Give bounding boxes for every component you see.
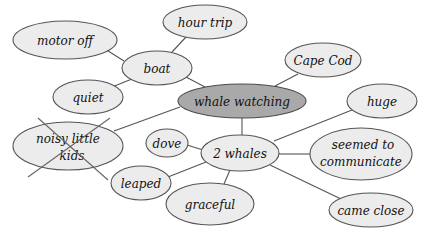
node-label: dove	[153, 137, 182, 151]
edge-2-whales-leaped	[168, 162, 206, 177]
node-label-line1: noisy little	[36, 132, 100, 146]
node-label: came close	[337, 204, 404, 218]
node-boat: boat	[122, 51, 192, 85]
node-label: huge	[367, 95, 397, 109]
node-label: graceful	[185, 198, 236, 212]
node-cape-cod: Cape Cod	[285, 43, 361, 77]
node-label-line2: communicate	[320, 155, 402, 169]
node-label: motor off	[37, 34, 95, 48]
edge-2-whales-dove	[187, 145, 203, 150]
node-seemed-to-communicate: seemed to communicate	[310, 128, 412, 180]
node-label: Cape Cod	[293, 54, 352, 68]
node-label: 2 whales	[212, 147, 267, 161]
edge-whale-watching-noisy-kids	[114, 107, 180, 131]
node-label: boat	[144, 62, 171, 76]
node-2-whales: 2 whales	[201, 135, 279, 171]
node-noisy-little-kids: noisy little kids	[13, 118, 123, 180]
node-came-close: came close	[329, 193, 413, 227]
edge-2-whales-graceful	[224, 170, 230, 184]
node-graceful: graceful	[166, 183, 254, 225]
node-whale-watching-central: whale watching	[178, 84, 306, 118]
node-huge: huge	[347, 84, 417, 118]
node-dove: dove	[146, 129, 188, 157]
node-label: leaped	[121, 177, 162, 191]
node-hour-trip: hour trip	[163, 5, 247, 39]
edge-whale-watching-cape-cod	[275, 74, 298, 86]
node-motor-off: motor off	[13, 21, 117, 59]
edge-boat-hour-trip	[172, 37, 186, 52]
node-leaped: leaped	[111, 166, 171, 200]
central-topic-label: whale watching	[194, 95, 290, 109]
node-label: hour trip	[178, 16, 233, 30]
node-label: quiet	[72, 91, 103, 105]
idea-web-diagram: motor off hour trip boat Cape Cod quiet …	[0, 0, 423, 234]
edge-boat-whale-watching	[186, 77, 205, 87]
node-quiet: quiet	[53, 80, 123, 114]
node-label-line1: seemed to	[332, 138, 394, 152]
